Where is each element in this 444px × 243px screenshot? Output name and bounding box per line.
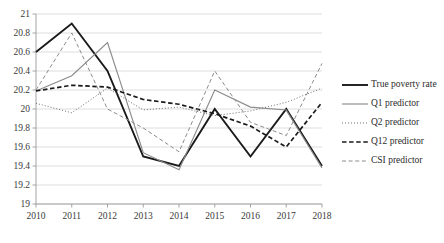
legend-label-q1-predictor: Q1 predictor: [371, 98, 420, 108]
series-line-q2-predictor: [36, 88, 322, 116]
y-tick-label-20.2: 20.2: [13, 85, 30, 95]
x-tick-label-2012: 2012: [98, 211, 117, 221]
y-axis: [33, 14, 37, 204]
y-tick-label-19.8: 19.8: [13, 123, 30, 133]
y-tick-label-19.2: 19.2: [13, 180, 30, 190]
legend-label-q12-predictor: Q12 predictor: [371, 136, 425, 146]
y-tick-label-21: 21: [21, 9, 31, 19]
x-tick-label-2015: 2015: [205, 211, 224, 221]
y-tick-label-19.4: 19.4: [13, 161, 30, 171]
x-tick-label-2017: 2017: [277, 211, 296, 221]
y-tick-label-20: 20: [21, 104, 31, 114]
series-line-q1-predictor: [36, 43, 322, 170]
x-tick-label-2013: 2013: [134, 211, 153, 221]
x-tick-label-2011: 2011: [62, 211, 81, 221]
series-layer: [36, 24, 322, 170]
series-line-csi-predictor: [36, 33, 322, 152]
legend-label-csi-predictor: CSI predictor: [371, 155, 423, 165]
x-tick-label-2014: 2014: [170, 211, 189, 221]
line-chart: 1919.219.419.619.82020.220.420.620.821 2…: [0, 0, 444, 243]
x-axis-tick-labels: 201020112012201320142015201620172018: [27, 211, 332, 221]
y-tick-label-19.6: 19.6: [13, 142, 30, 152]
y-tick-label-20.6: 20.6: [13, 47, 30, 57]
chart-legend: True poverty rateQ1 predictorQ2 predicto…: [342, 79, 437, 165]
legend-label-true-poverty-rate: True poverty rate: [371, 79, 437, 89]
x-axis: [36, 204, 322, 208]
y-tick-label-19: 19: [21, 199, 31, 209]
series-line-true-poverty-rate: [36, 24, 322, 167]
y-tick-label-20.8: 20.8: [13, 28, 30, 38]
x-tick-label-2018: 2018: [313, 211, 332, 221]
chart-canvas: 1919.219.419.619.82020.220.420.620.821 2…: [0, 0, 444, 243]
x-tick-label-2010: 2010: [27, 211, 46, 221]
y-tick-label-20.4: 20.4: [13, 66, 30, 76]
legend-label-q2-predictor: Q2 predictor: [371, 117, 420, 127]
series-line-q12-predictor: [36, 85, 322, 147]
x-tick-label-2016: 2016: [241, 211, 260, 221]
y-axis-tick-labels: 1919.219.419.619.82020.220.420.620.821: [13, 9, 30, 209]
